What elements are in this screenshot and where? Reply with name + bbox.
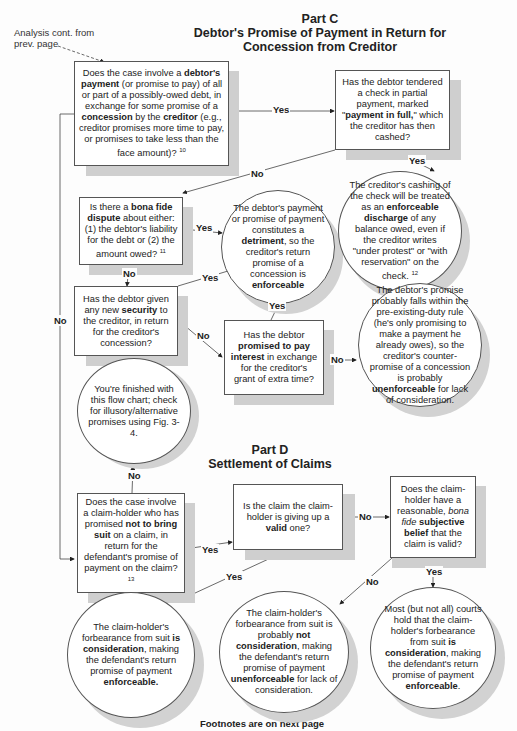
edge-label-yes: Yes: [268, 300, 286, 311]
question-claim-valid: Is the claim the claim-holder is giving …: [233, 484, 343, 550]
result-most-courts: Most (but not all) courts hold that the …: [370, 587, 496, 709]
part-d-title: Settlement of Claims: [180, 457, 360, 471]
question-not-bring-suit: Does the case involve a claim-holder who…: [77, 493, 185, 593]
edge-label-no: No: [330, 354, 345, 365]
edge-label-yes: Yes: [425, 566, 443, 577]
edge-label-no: No: [53, 315, 68, 326]
question-debtor-payment: Does the case involve a debtor's payment…: [74, 61, 229, 166]
part-c-label: Part C: [180, 12, 460, 26]
edge-label-no: No: [122, 268, 137, 279]
part-c-heading: Part C Debtor's Promise of Payment in Re…: [180, 12, 460, 54]
edge-label-yes: Yes: [201, 272, 219, 283]
continuation-note-line1: Analysis cont. from: [14, 27, 94, 38]
edge-label-no: No: [358, 511, 373, 522]
question-new-security: Has the debtor given any new security to…: [74, 286, 178, 356]
edge-label-yes: Yes: [201, 544, 219, 555]
edge-label-no: No: [196, 330, 211, 341]
edge-label-yes: Yes: [195, 222, 213, 233]
flowchart-page: Part C Debtor's Promise of Payment in Re…: [0, 0, 517, 731]
part-c-title-line2: Concession from Creditor: [180, 40, 460, 54]
edge-label-no: No: [127, 470, 142, 481]
edge-label-yes: Yes: [272, 104, 290, 115]
question-bona-fide-dispute: Is there a bona fide dispute about eithe…: [79, 197, 183, 265]
continuation-note: Analysis cont. from prev. page: [14, 27, 94, 49]
part-c-title-line1: Debtor's Promise of Payment in Return fo…: [180, 26, 460, 40]
result-pre-existing-duty: The debtor's promise probably falls with…: [358, 283, 482, 407]
edge-label-yes: Yes: [408, 155, 426, 166]
edge-label-yes: Yes: [225, 571, 243, 582]
result-not-consideration: The claim-holder's forbearance from suit…: [219, 591, 349, 713]
continuation-note-line2: prev. page: [14, 38, 94, 49]
question-pay-interest: Has the debtor promised to pay interest …: [224, 320, 324, 395]
part-d-heading: Part D Settlement of Claims: [180, 443, 360, 471]
question-subjective-belief: Does the claim-holder have a reasonable,…: [390, 476, 476, 558]
question-check-tendered: Has the debtor tendered a check in parti…: [335, 70, 450, 150]
result-cashing-discharge: The creditor's cashing of the check will…: [338, 171, 462, 291]
edge-label-no: No: [365, 576, 380, 587]
part-d-label: Part D: [180, 443, 360, 457]
result-finished: You're finished with this flow chart; ch…: [77, 358, 191, 464]
result-detriment-enforceable: The debtor's payment or promise of payme…: [221, 190, 335, 304]
edge-label-no: No: [250, 168, 265, 179]
result-is-consideration: The claim-holder's forbearance from suit…: [67, 592, 195, 718]
